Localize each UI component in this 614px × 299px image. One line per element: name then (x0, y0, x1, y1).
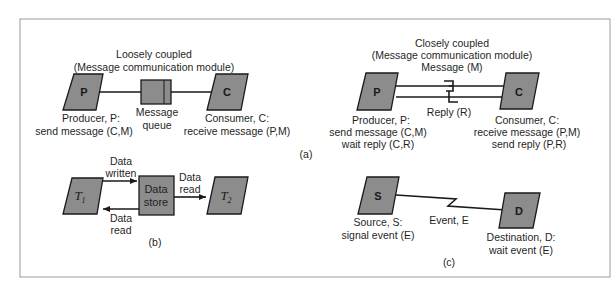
producer-box-label: P (80, 86, 87, 98)
read-fwd-label-2: read (179, 183, 200, 195)
consumer-box-label: C (223, 86, 231, 98)
close-consumer-box-label: C (515, 86, 523, 98)
close-title-2: (Message communication module) (372, 49, 532, 61)
data-store-label-1: Data (144, 183, 168, 195)
written-label-1: Data (110, 155, 132, 167)
destination-label-2: wait event (E) (488, 244, 553, 256)
close-consumer-label-3: send reply (P,R) (492, 138, 567, 150)
source-label-2: signal event (E) (342, 229, 415, 241)
written-label-2: written (105, 167, 137, 179)
read-back-label-1: Data (110, 212, 132, 224)
close-producer-label-1: Producer, P: (352, 114, 410, 126)
destination-box-label: D (515, 205, 523, 217)
close-title-1: Closely coupled (415, 37, 489, 49)
producer-label-2: send message (C,M) (35, 125, 132, 137)
queue-label-2: queue (142, 119, 171, 131)
source-label-1: Source, S: (353, 216, 402, 228)
consumer-label-1: Consumer, C: (205, 112, 269, 124)
close-consumer-label-2: receive message (P,M) (474, 126, 581, 138)
loose-title-1: Loosely coupled (116, 48, 192, 60)
close-consumer-label-1: Consumer, C: (495, 114, 559, 126)
panel-a-label: (a) (300, 148, 313, 160)
panel-b-label: (b) (149, 236, 162, 248)
read-back-label-2: read (110, 224, 131, 236)
loose-title-2: (Message communication module) (74, 61, 234, 73)
communication-diagram: Loosely coupled (Message communication m… (0, 0, 614, 299)
source-box-label: S (374, 190, 381, 202)
destination-label-1: Destination, D: (487, 231, 556, 243)
data-store-label-2: store (144, 196, 168, 208)
reply-label: Reply (R) (427, 106, 471, 118)
consumer-label-2: receive message (P,M) (184, 125, 291, 137)
close-producer-label-3: wait reply (C,R) (341, 138, 414, 150)
event-label: Event, E (429, 214, 469, 226)
panel-c-label: (c) (443, 256, 455, 268)
queue-label-1: Message (136, 106, 179, 118)
close-producer-label-2: send message (C,M) (329, 126, 426, 138)
message-queue-box (141, 80, 171, 104)
close-title-3: Message (M) (421, 61, 482, 73)
read-fwd-label-1: Data (179, 171, 201, 183)
producer-label-1: Producer, P: (62, 112, 120, 124)
close-producer-box-label: P (373, 86, 380, 98)
